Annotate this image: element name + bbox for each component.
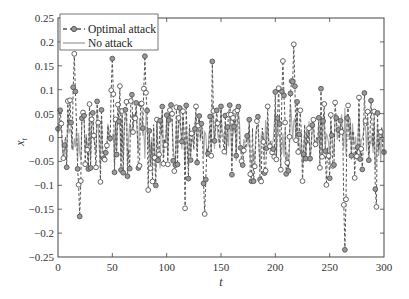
svg-text:xt: xt <box>13 137 29 146</box>
x-tick-label: 50 <box>107 261 119 273</box>
legend-label-optimal-attack: Optimal attack <box>88 23 156 36</box>
x-tick-label: 150 <box>213 261 230 273</box>
y-tick-label: −0.15 <box>29 203 55 215</box>
y-axis-label: xt <box>13 137 29 146</box>
circle-marker-icon <box>71 26 76 31</box>
y-tick-label: 0.2 <box>40 36 54 48</box>
x-axis-label: t <box>219 275 223 289</box>
x-tick-label: 300 <box>376 261 393 273</box>
legend: Optimal attack No attack <box>60 14 158 50</box>
line-chart: 050100150200250300 −0.25−0.2−0.15−0.1−0.… <box>0 0 409 299</box>
plot-area <box>56 42 387 252</box>
optimal-attack-series <box>56 42 387 252</box>
x-tick-label: 100 <box>158 261 175 273</box>
y-tick-label: 0.15 <box>35 60 55 72</box>
legend-label-no-attack: No attack <box>88 37 133 49</box>
y-tick-label: 0 <box>49 132 55 144</box>
y-tick-label: −0.2 <box>34 227 54 239</box>
y-tick-label: −0.05 <box>29 155 55 167</box>
y-tick-label: −0.25 <box>29 251 55 263</box>
y-tick-label: 0.05 <box>35 108 55 120</box>
x-tick-label: 250 <box>321 261 338 273</box>
y-tick-label: 0.1 <box>40 84 54 96</box>
x-tick-label: 0 <box>55 261 61 273</box>
y-tick-label: 0.25 <box>35 12 55 24</box>
x-tick-label: 200 <box>267 261 284 273</box>
y-tick-label: −0.1 <box>34 179 54 191</box>
